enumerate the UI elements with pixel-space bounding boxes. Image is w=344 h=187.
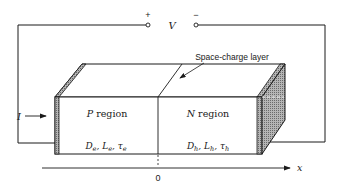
right-electrode <box>257 97 262 154</box>
left-electrode <box>55 97 59 154</box>
minus-sign: − <box>193 10 198 20</box>
n-region-word: region <box>195 108 229 119</box>
negative-terminal <box>194 23 198 27</box>
pn-junction-diagram: + V − Space-charge layer I P region N re… <box>0 0 344 187</box>
p-region-label: P region <box>86 108 128 119</box>
current-label: I <box>16 111 22 122</box>
n-region-params: Dh, Lh, τh <box>186 141 229 153</box>
n-region-label: N region <box>186 108 229 119</box>
positive-terminal <box>146 23 150 27</box>
voltage-label: V <box>168 20 177 31</box>
plus-sign: + <box>145 10 150 20</box>
x-axis-label: x <box>297 162 303 173</box>
n-length-symbol: L <box>203 141 210 151</box>
p-region-word: region <box>93 108 127 119</box>
p-diffusion-symbol: D <box>84 141 92 151</box>
n-diffusion-symbol: D <box>186 141 194 151</box>
space-charge-label: Space-charge layer <box>195 52 269 62</box>
p-length-symbol: L <box>101 141 108 151</box>
origin-label: 0 <box>155 173 160 183</box>
p-lifetime-subscript: e <box>123 145 127 153</box>
p-region-params: De, Le, τe <box>84 141 126 153</box>
n-lifetime-subscript: h <box>225 145 229 153</box>
